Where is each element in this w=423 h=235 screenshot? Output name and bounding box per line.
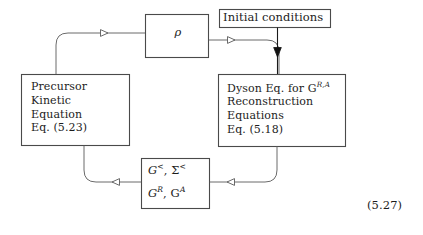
greens-line-2-sup2: A [180, 185, 186, 194]
dyson-line-3: Equations [227, 110, 330, 123]
precursor-line-4: Eq. (5.23) [31, 122, 87, 135]
greens-line-1-base: G [148, 163, 157, 177]
arrowhead-hollow-left-to-greens [227, 179, 235, 186]
dyson-line-1-base: Dyson Eq. for G [227, 82, 317, 95]
dyson-line-4: Eq. (5.18) [227, 124, 330, 137]
edge-rho-to-dyson [209, 40, 280, 74]
greens-line-2-base: G [148, 186, 157, 200]
figure-canvas: ρ Initial conditions Precursor Kinetic E… [0, 0, 423, 235]
greens-line-1: G<, Σ< [148, 163, 186, 177]
greens-line-1-mid: , Σ [164, 163, 180, 177]
arrowhead-hollow-right-to-rho [101, 30, 109, 37]
rho-label: ρ [158, 26, 198, 39]
arrowhead-hollow-right-to-dyson [228, 37, 236, 44]
arrowhead-solid-down-to-dyson [274, 48, 282, 58]
greens-line-2: GR, GA [148, 186, 186, 200]
greens-line-2-mid: , G [163, 186, 180, 200]
precursor-line-3: Equation [31, 109, 87, 122]
dyson-box-text: Dyson Eq. for GR,A Reconstruction Equati… [227, 81, 330, 138]
greens-line-1-sup2: < [180, 162, 186, 171]
greens-box-text: G<, Σ< GR, GA [148, 163, 186, 200]
dyson-line-2: Reconstruction [227, 96, 330, 109]
arrowhead-hollow-left-to-precursor [112, 179, 120, 186]
edge-greens-to-precursor [84, 146, 142, 183]
equation-number: (5.27) [367, 199, 402, 212]
precursor-line-1: Precursor [31, 81, 87, 94]
edge-precursor-to-rho [56, 33, 145, 74]
dyson-superscript: R,A [317, 80, 330, 89]
precursor-box-text: Precursor Kinetic Equation Eq. (5.23) [31, 81, 87, 136]
precursor-line-2: Kinetic [31, 95, 87, 108]
dyson-line-1: Dyson Eq. for GR,A [227, 81, 330, 95]
edge-dyson-to-greens [210, 146, 278, 182]
initial-conditions-label: Initial conditions [223, 11, 323, 24]
